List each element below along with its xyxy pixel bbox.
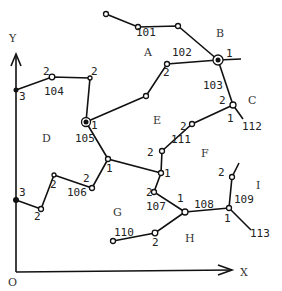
- node[interactable]: [182, 209, 188, 215]
- graph-diagram: Y X O: [0, 0, 282, 291]
- region-i: I: [256, 179, 260, 192]
- edge-label-102: 102: [172, 46, 192, 59]
- edge-label-105: 105: [75, 132, 95, 145]
- node-number: 1: [227, 112, 234, 125]
- region-d: D: [42, 132, 51, 145]
- node[interactable]: [176, 24, 181, 29]
- edge-label-108: 108: [194, 198, 214, 211]
- node-number: 1: [106, 162, 113, 175]
- node-number: 2: [91, 65, 98, 78]
- edge-label-107: 107: [146, 200, 166, 213]
- edge-101: [106, 14, 218, 60]
- node-number: 2: [163, 66, 170, 79]
- node-number: 2: [83, 172, 90, 185]
- node-b-hub-core: [216, 58, 221, 63]
- node[interactable]: [90, 186, 95, 191]
- origin-label: O: [8, 276, 17, 289]
- node-number: 2: [147, 146, 154, 159]
- node[interactable]: [144, 94, 149, 99]
- node[interactable]: [159, 171, 164, 176]
- node[interactable]: [52, 173, 56, 177]
- node-105-core: [84, 120, 89, 125]
- node-number: 1: [224, 212, 231, 225]
- region-c: C: [248, 94, 256, 107]
- edges: [16, 14, 251, 241]
- node-number: 2: [180, 120, 187, 133]
- node-number: 2: [219, 94, 226, 107]
- node-number: 2: [146, 186, 153, 199]
- node[interactable]: [230, 102, 236, 108]
- edge-113: [229, 208, 251, 230]
- region-b: B: [216, 27, 224, 40]
- edge-label-112: 112: [242, 120, 262, 133]
- node[interactable]: [152, 230, 158, 236]
- edge-label-110: 110: [114, 226, 134, 239]
- node-number: 2: [50, 178, 57, 191]
- node[interactable]: [106, 157, 111, 162]
- node-number: 3: [19, 90, 26, 103]
- x-axis-label: X: [240, 266, 248, 279]
- edge-label-103: 103: [203, 79, 223, 92]
- node[interactable]: [160, 149, 165, 154]
- node-number: 1: [164, 167, 171, 180]
- node-number: 2: [152, 236, 159, 249]
- edge-label-101: 101: [136, 26, 156, 39]
- edge-label-106: 106: [67, 186, 87, 199]
- node-number: 2: [34, 210, 41, 223]
- node-number: 1: [91, 119, 98, 132]
- x-axis: [16, 270, 232, 272]
- node[interactable]: [104, 12, 109, 17]
- region-a: A: [143, 46, 153, 59]
- node-number: 1: [226, 47, 233, 60]
- node[interactable]: [111, 239, 116, 244]
- edge-label-109: 109: [234, 193, 254, 206]
- edge-106: [16, 159, 108, 209]
- edge-104: [16, 77, 90, 122]
- node-number: 2: [43, 65, 50, 78]
- edge-label-111: 111: [171, 133, 191, 146]
- region-g: G: [113, 206, 122, 219]
- node-number: 3: [19, 186, 26, 199]
- edge-labels: 101 102 103 104 105 106 107 108 109 110 …: [44, 26, 270, 240]
- region-e: E: [153, 114, 161, 127]
- node-y3-top[interactable]: [14, 88, 19, 93]
- node[interactable]: [190, 122, 195, 127]
- node-number: 2: [218, 166, 225, 179]
- region-h: H: [185, 232, 195, 245]
- edge-label-104: 104: [44, 85, 64, 98]
- region-f: F: [201, 147, 209, 160]
- edge-label-113: 113: [250, 227, 270, 240]
- node[interactable]: [227, 206, 232, 211]
- node[interactable]: [230, 175, 235, 180]
- node-number: 1: [177, 192, 184, 205]
- y-axis-label: Y: [8, 32, 17, 45]
- node[interactable]: [49, 74, 55, 80]
